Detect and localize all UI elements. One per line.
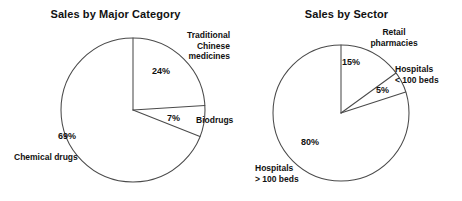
slice-label-line-2: Chinese	[152, 41, 230, 52]
chart-panel-sales-by-major-category: Sales by Major Category Traditional Chin…	[0, 0, 231, 201]
slice-label-line-2: > 100 beds	[255, 174, 299, 185]
slice-label-line-1: Traditional	[152, 30, 230, 41]
slice-value-chemical-drugs: 69%	[58, 131, 76, 141]
slice-value-hospitals-under-100-beds: 5%	[376, 85, 389, 95]
slice-label-line-3: medicines	[152, 51, 230, 62]
slice-label-line-2: < 100 beds	[395, 75, 461, 86]
slice-label-traditional-chinese-medicines: Traditional Chinese medicines	[152, 30, 230, 62]
slice-value-biodrugs: 7%	[167, 113, 180, 123]
slice-value-retail-pharmacies: 15%	[342, 57, 360, 67]
chart-panel-sales-by-sector: Sales by Sector Retail pharmacies Hospit…	[231, 0, 462, 201]
slice-label-chemical-drugs: Chemical drugs	[14, 152, 78, 163]
slice-value-tcm: 24%	[152, 66, 170, 76]
slice-label-line-1: Retail	[353, 27, 435, 38]
slice-label-hospitals-under-100-beds: Hospitals < 100 beds	[395, 64, 461, 85]
slice-label-biodrugs: Biodrugs	[196, 115, 233, 126]
slice-label-hospitals-over-100-beds: Hospitals > 100 beds	[255, 163, 299, 184]
slice-value-hospitals-over-100-beds: 80%	[301, 137, 319, 147]
pie-chart-figure: Sales by Major Category Traditional Chin…	[0, 0, 462, 201]
slice-label-retail-pharmacies: Retail pharmacies	[353, 27, 435, 48]
slice-label-line-1: Hospitals	[395, 64, 461, 75]
slice-label-line-2: pharmacies	[353, 38, 435, 49]
slice-label-line-1: Hospitals	[255, 163, 299, 174]
